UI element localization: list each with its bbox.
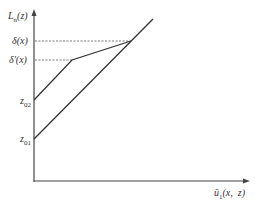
y-axis-arrow-icon [32,9,37,16]
y-axis-label-arg: (z) [17,10,28,21]
tick-label-z02: z02 [20,96,31,109]
x-axis-label-arg: (x, z) [223,187,246,198]
upper-line [34,41,131,100]
diagram-canvas [0,0,256,204]
x-axis-label: ū1(x, z) [214,188,245,201]
tick-label-delta-prime-text: δ′(x) [9,54,27,65]
y-axis-label: Ln(z) [8,11,28,24]
tick-label-z01: z01 [20,134,31,147]
tick-label-delta-text: δ(x) [12,35,28,46]
tick-label-z02-sub: 02 [24,101,31,109]
x-axis-arrow-icon [243,179,250,184]
tick-label-delta: δ(x) [12,36,28,46]
tick-label-delta-prime: δ′(x) [9,55,27,65]
tick-label-z01-sub: 01 [24,139,31,147]
lower-line [34,19,153,139]
